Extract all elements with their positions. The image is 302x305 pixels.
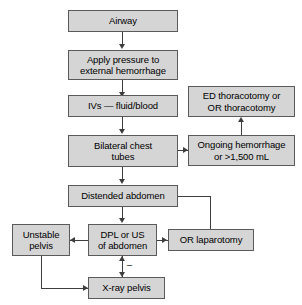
edge-distended-abdomen-to-or-laparotomy-horizontal — [178, 196, 211, 197]
node-ivs-fluid-blood[interactable]: IVs — fluid/blood — [68, 95, 178, 117]
negative-sign-label: – — [127, 261, 132, 270]
edge-ongoing-hemorrhage-to-ed-thoracotomy — [241, 122, 242, 135]
node-dpl-or-us-of-abdomen[interactable]: DPL or US of abdomen — [88, 224, 157, 256]
node-bilateral-chest-tubes[interactable]: Bilateral chest tubes — [68, 135, 178, 167]
arrowhead-up-ed-thoracotomy — [238, 117, 244, 122]
arrowhead-down-apply-pressure — [119, 44, 125, 49]
node-distended-abdomen[interactable]: Distended abdomen — [68, 185, 178, 207]
node-unstable-pelvis[interactable]: Unstable pelvis — [12, 224, 70, 256]
edge-unstable-pelvis-to-xray-pelvis-horizontal — [41, 288, 88, 289]
edge-unstable-pelvis-to-xray-pelvis-vertical — [41, 256, 42, 288]
node-xray-pelvis[interactable]: X-ray pelvis — [88, 277, 165, 299]
arrowhead-down-distended-abdomen — [119, 179, 125, 184]
node-or-laparotomy[interactable]: OR laparotomy — [168, 229, 254, 251]
arrowhead-up-dpl-us — [119, 256, 125, 261]
arrowhead-left-unstable-pelvis — [70, 237, 75, 243]
node-airway[interactable]: Airway — [68, 10, 178, 32]
node-apply-pressure[interactable]: Apply pressure to external hemorrhage — [68, 50, 178, 80]
node-ed-thoracotomy[interactable]: ED thoracotomy or OR thoracotomy — [188, 86, 295, 117]
flowchart-canvas: – Airway Apply pressure to external hemo… — [0, 0, 302, 305]
node-ongoing-hemorrhage[interactable]: Ongoing hemorrhage or >1,500 mL — [188, 135, 295, 166]
edge-distended-abdomen-to-or-laparotomy-vertical — [210, 196, 211, 232]
arrowhead-down-chest-tubes — [119, 129, 125, 134]
arrowhead-right-or-laparotomy — [162, 237, 167, 243]
arrowhead-down-dpl-us — [119, 218, 125, 223]
